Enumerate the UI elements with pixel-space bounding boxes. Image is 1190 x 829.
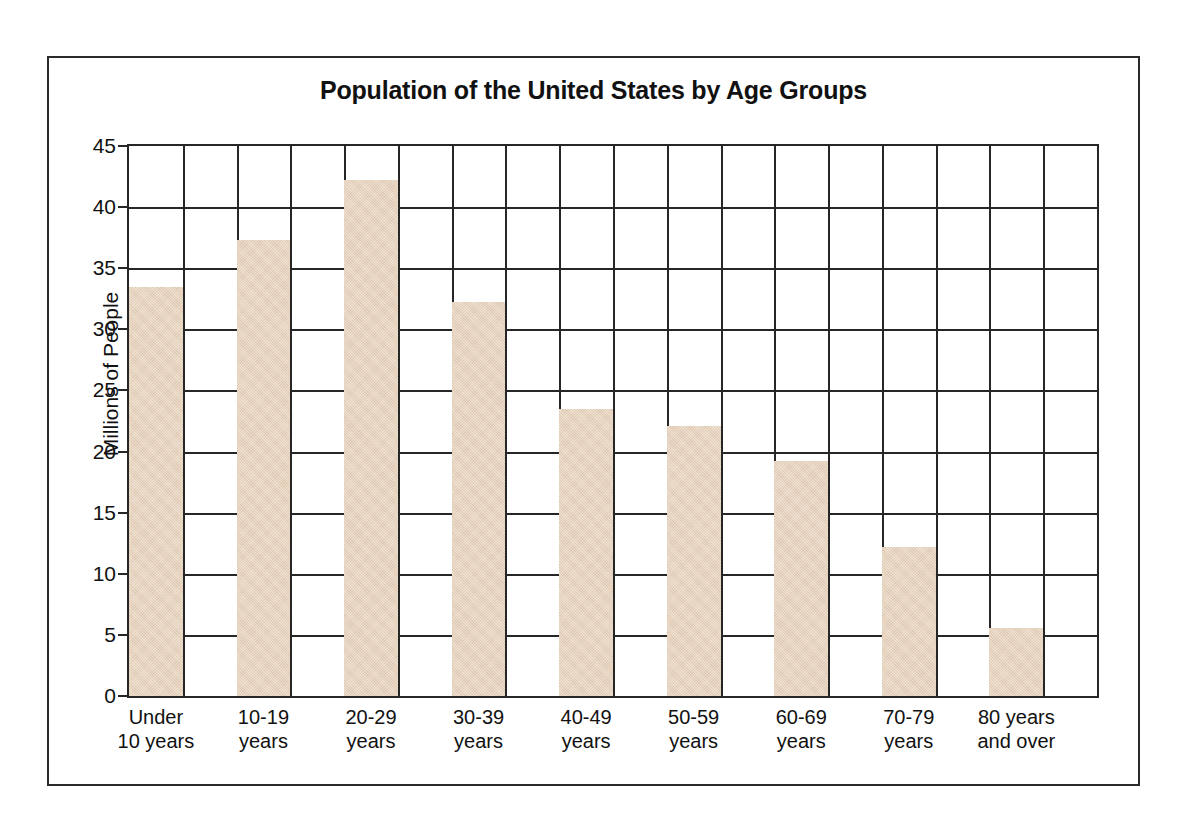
x-tick-label: 30-39years (453, 705, 504, 754)
bar (774, 461, 828, 696)
x-tick-label-line2: and over (977, 729, 1055, 753)
gridline-vertical (398, 146, 400, 696)
y-tick-mark (118, 512, 129, 514)
y-tick-mark (118, 634, 129, 636)
y-tick-mark (118, 695, 129, 697)
x-tick-label-line1: Under (129, 706, 183, 728)
x-tick-label-line2: years (883, 729, 934, 753)
x-tick-label: 80 yearsand over (977, 705, 1055, 754)
x-tick-label: 50-59years (668, 705, 719, 754)
x-tick-label-line1: 60-69 (776, 706, 827, 728)
x-tick-label: Under10 years (118, 705, 195, 754)
gridline-vertical (828, 146, 830, 696)
x-tick-label-line2: years (453, 729, 504, 753)
x-tick-label-line2: years (668, 729, 719, 753)
y-tick-label: 0 (104, 684, 116, 708)
x-tick-label-line1: 10-19 (238, 706, 289, 728)
x-tick-label: 10-19years (238, 705, 289, 754)
bar (129, 287, 183, 696)
gridline-vertical (613, 146, 615, 696)
y-tick-label: 45 (93, 134, 116, 158)
x-tick-label-line1: 70-79 (883, 706, 934, 728)
gridline-vertical (1043, 146, 1045, 696)
y-tick-mark (118, 451, 129, 453)
y-tick-label: 10 (93, 562, 116, 586)
y-tick-mark (118, 206, 129, 208)
y-tick-mark (118, 267, 129, 269)
y-tick-mark (118, 573, 129, 575)
bar (882, 547, 936, 696)
chart-frame: Population of the United States by Age G… (47, 56, 1140, 786)
x-tick-label-line1: 50-59 (668, 706, 719, 728)
chart-title: Population of the United States by Age G… (49, 76, 1138, 105)
gridline-vertical (505, 146, 507, 696)
y-tick-label: 15 (93, 501, 116, 525)
y-tick-label: 20 (93, 440, 116, 464)
y-tick-label: 5 (104, 623, 116, 647)
x-tick-label-line1: 20-29 (345, 706, 396, 728)
x-tick-label-line1: 40-49 (561, 706, 612, 728)
x-tick-label-line2: years (561, 729, 612, 753)
y-tick-label: 35 (93, 256, 116, 280)
y-tick-label: 30 (93, 317, 116, 341)
y-tick-label: 25 (93, 378, 116, 402)
y-tick-mark (118, 328, 129, 330)
bar (344, 180, 398, 696)
bar (667, 426, 721, 696)
gridline-vertical (989, 146, 991, 696)
gridline-vertical (290, 146, 292, 696)
x-tick-label: 60-69years (776, 705, 827, 754)
bar (452, 302, 506, 696)
y-tick-label: 40 (93, 195, 116, 219)
gridline-vertical (721, 146, 723, 696)
x-tick-label-line2: 10 years (118, 729, 195, 753)
x-tick-label: 70-79years (883, 705, 934, 754)
bar (237, 240, 291, 696)
plot-area: 051015202530354045Under10 years10-19year… (127, 144, 1099, 698)
bar (989, 628, 1043, 696)
y-tick-mark (118, 389, 129, 391)
gridline-horizontal (129, 207, 1097, 209)
x-tick-label: 20-29years (345, 705, 396, 754)
gridline-vertical (936, 146, 938, 696)
x-tick-label-line1: 80 years (978, 706, 1055, 728)
x-tick-label-line1: 30-39 (453, 706, 504, 728)
bar (559, 409, 613, 696)
y-tick-mark (118, 145, 129, 147)
x-tick-label-line2: years (238, 729, 289, 753)
gridline-vertical (183, 146, 185, 696)
x-tick-label-line2: years (776, 729, 827, 753)
x-tick-label: 40-49years (561, 705, 612, 754)
x-tick-label-line2: years (345, 729, 396, 753)
